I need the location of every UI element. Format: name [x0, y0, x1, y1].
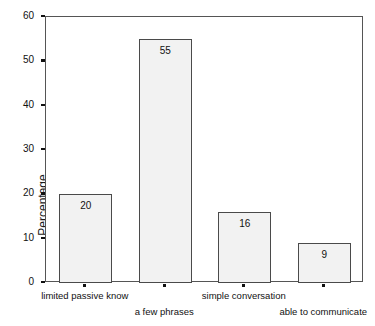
bar-value-label: 55 — [140, 45, 191, 56]
y-tick-label: 10 — [14, 233, 34, 243]
bar[interactable]: 20 — [59, 194, 112, 283]
x-tick-label: simple conversation — [202, 290, 286, 301]
bar[interactable]: 16 — [218, 212, 271, 283]
y-tick-label: 60 — [14, 11, 34, 21]
x-tick-mark — [83, 284, 86, 287]
x-tick-label: a few phrases — [135, 306, 194, 317]
x-tick-mark — [242, 284, 245, 287]
y-tick-label: 30 — [14, 144, 34, 154]
y-tick-label: 20 — [14, 188, 34, 198]
y-tick-label: 0 — [14, 277, 34, 287]
x-tick-mark — [163, 284, 166, 287]
plot-area: 2055169 — [45, 16, 363, 282]
x-tick-label: limited passive know — [41, 290, 128, 301]
bar-value-label: 9 — [299, 249, 350, 260]
x-tick-label: able to communicate — [279, 306, 367, 317]
x-tick-mark — [322, 284, 325, 287]
bar-chart: Percentage 0102030405060 2055169 limited… — [0, 0, 375, 326]
bar-value-label: 20 — [60, 200, 111, 211]
bar[interactable]: 9 — [298, 243, 351, 283]
y-tick-label: 50 — [14, 55, 34, 65]
y-tick-label: 40 — [14, 100, 34, 110]
bar[interactable]: 55 — [139, 39, 192, 283]
bar-value-label: 16 — [219, 218, 270, 229]
